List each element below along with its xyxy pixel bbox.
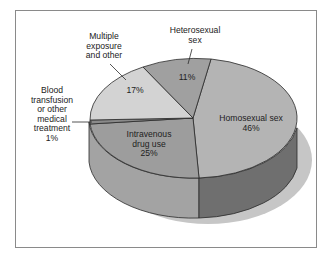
label-multiple-pct: 17% — [120, 86, 150, 96]
label-hetero-pct: 11% — [172, 73, 202, 83]
label-hetero: Heterosexual sex — [160, 26, 230, 45]
leader-multiple — [110, 64, 126, 80]
label-homosexual: Homosexual sex 46% — [208, 114, 294, 133]
label-ivdu: Intravenous drug use 25% — [114, 130, 184, 159]
label-multiple: Multiple exposure and other — [74, 32, 134, 61]
label-blood: Blood transfusion or other medical treat… — [22, 86, 82, 144]
